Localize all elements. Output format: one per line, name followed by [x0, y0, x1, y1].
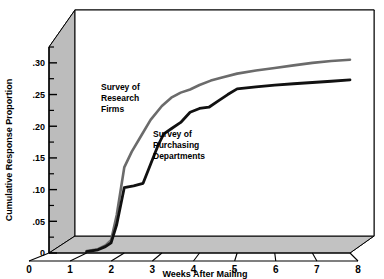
chart-3d-frame	[49, 10, 374, 253]
y-tick-label: 0	[40, 248, 45, 258]
x-tick-mark	[275, 253, 276, 261]
y-tick-label: .20	[32, 122, 45, 132]
y-tick-label: .30	[32, 58, 45, 68]
x-tick-label: 7	[314, 264, 320, 275]
annotation-line: Survey of	[101, 82, 140, 92]
annotation-line: Departments	[153, 151, 205, 161]
annotation-line: Research	[101, 93, 139, 103]
x-axis-title: Weeks After Mailing	[162, 269, 247, 279]
annotation-line: Firms	[101, 104, 124, 114]
x-tick-mark	[152, 253, 162, 261]
x-tick-mark	[70, 253, 87, 261]
y-axis-title: Cumulative Response Proportion	[4, 79, 14, 222]
y-tick-label: .10	[32, 185, 45, 195]
x-tick-label: 1	[67, 264, 73, 275]
x-tick-label: 6	[273, 264, 279, 275]
y-tick-label: .05	[32, 217, 45, 227]
x-tick-mark	[194, 253, 200, 261]
y-axis: 0.05.10.15.20.25.30 Cumulative Response …	[4, 47, 57, 258]
x-tick-label: 2	[108, 264, 114, 275]
x-tick-label: 0	[26, 264, 32, 275]
x-tick-label: 3	[150, 264, 156, 275]
x-tick-label: 8	[355, 264, 361, 275]
y-tick-label: .25	[32, 90, 45, 100]
chart-container: 0.05.10.15.20.25.30 Cumulative Response …	[0, 0, 384, 279]
x-tick-mark	[235, 253, 238, 261]
annotation-line: Survey of	[153, 129, 192, 139]
x-axis: 012345678 Weeks After Mailing	[26, 253, 361, 279]
x-tick-mark	[350, 253, 358, 261]
x-tick-mark	[111, 253, 124, 261]
x-tick-mark	[312, 253, 317, 261]
y-tick-label: .15	[32, 153, 45, 163]
annotation-line: Purchasing	[153, 140, 199, 150]
cumulative-response-chart: 0.05.10.15.20.25.30 Cumulative Response …	[0, 0, 384, 279]
